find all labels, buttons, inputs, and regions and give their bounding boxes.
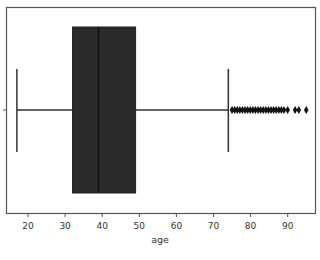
x-tick-label: 80: [245, 221, 257, 231]
x-tick-label: 70: [208, 221, 220, 231]
x-tick-label: 40: [96, 221, 108, 231]
outlier-marker: [285, 106, 290, 114]
x-tick-label: 50: [134, 221, 146, 231]
outlier-marker: [304, 106, 309, 114]
x-tick-label: 90: [282, 221, 294, 231]
box-plot: 2030405060708090 age: [0, 0, 320, 260]
outlier-marker: [297, 106, 302, 114]
x-axis-label: age: [151, 234, 169, 245]
iqr-box: [73, 27, 136, 193]
x-tick-label: 60: [171, 221, 183, 231]
plot-area: [17, 27, 309, 193]
x-tick-label: 20: [22, 221, 34, 231]
x-tick-label: 30: [59, 221, 71, 231]
x-axis-ticks: 2030405060708090: [22, 214, 293, 232]
